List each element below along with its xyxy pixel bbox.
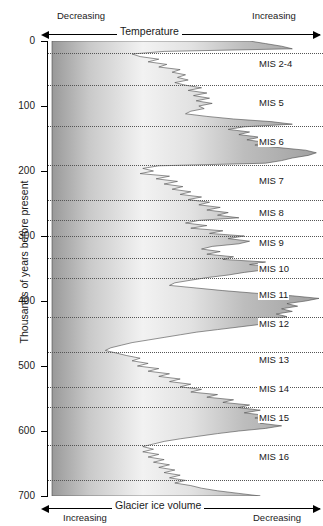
top-axis-title: Temperature: [117, 25, 182, 37]
y-axis-tick: [41, 106, 48, 107]
stage-gridline: [48, 126, 323, 127]
y-axis-title: Thousands of years before present: [18, 172, 30, 352]
y-axis-tick-label: 600: [5, 425, 35, 436]
bottom-axis-right-label: Decreasing: [253, 512, 301, 523]
y-axis-tick: [41, 41, 48, 42]
y-axis-tick: [41, 496, 48, 497]
y-axis-tick: [41, 366, 48, 367]
mis-stage-label: MIS 5: [258, 97, 285, 108]
y-axis-tick-label: 0: [5, 35, 35, 46]
mis-stage-label: MIS 15: [258, 412, 290, 423]
top-axis-left-label: Decreasing: [57, 10, 105, 21]
y-axis-tick: [41, 431, 48, 432]
bottom-axis: Glacier ice volume Increasing Decreasing: [0, 498, 323, 526]
y-axis-tick: [41, 236, 48, 237]
stage-gridline: [48, 200, 323, 201]
mis-stage-label: MIS 14: [258, 383, 290, 394]
y-axis-tick-label: 100: [5, 100, 35, 111]
y-axis-tick-label: 500: [5, 360, 35, 371]
bottom-axis-left-label: Increasing: [63, 512, 107, 523]
stage-gridline: [48, 407, 323, 408]
mis-stage-label: MIS 10: [258, 263, 290, 274]
stage-gridline: [48, 258, 323, 259]
stage-gridline: [48, 85, 323, 86]
mis-stage-label: MIS 16: [258, 451, 290, 462]
bottom-axis-left-arrow-icon: [41, 505, 49, 513]
stage-gridline: [48, 220, 323, 221]
mis-stage-label: MIS 7: [258, 175, 285, 186]
mis-stage-label: MIS 8: [258, 207, 285, 218]
stage-gridline: [48, 278, 323, 279]
mis-stage-label: MIS 9: [258, 237, 285, 248]
mis-stage-label: MIS 13: [258, 354, 290, 365]
top-axis-right-arrow-icon: [313, 31, 321, 39]
top-axis-left-arrow-icon: [41, 31, 49, 39]
y-axis-tick: [41, 301, 48, 302]
y-axis-tick-label: 400: [5, 295, 35, 306]
mis-stage-label: MIS 6: [258, 136, 285, 147]
stage-gridline: [48, 480, 323, 481]
y-axis-tick: [41, 171, 48, 172]
y-axis-tick-label: 300: [5, 230, 35, 241]
stage-gridline: [48, 165, 323, 166]
mis-stage-label: MIS 2-4: [258, 58, 293, 69]
stage-gridline: [48, 445, 323, 446]
paleoclimate-chart: Decreasing Increasing Temperature Thousa…: [0, 0, 323, 526]
y-axis-tick-label: 200: [5, 165, 35, 176]
bottom-axis-title: Glacier ice volume: [112, 499, 204, 511]
stage-gridline: [48, 53, 323, 54]
bottom-axis-right-arrow-icon: [313, 505, 321, 513]
mis-stage-label: MIS 12: [258, 318, 290, 329]
mis-stage-label: MIS 11: [258, 289, 289, 300]
top-axis-right-label: Increasing: [252, 10, 296, 21]
top-axis: Decreasing Increasing Temperature: [0, 10, 323, 42]
